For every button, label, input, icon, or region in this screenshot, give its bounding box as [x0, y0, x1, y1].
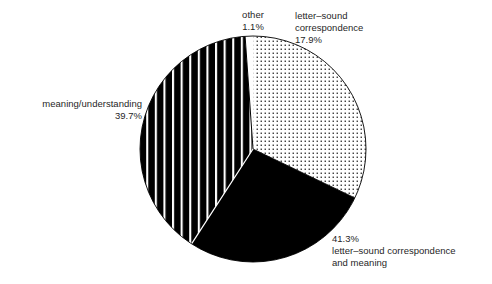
pie-label-combined-name-1: letter–sound correspondence [332, 245, 456, 257]
pie-label-other: other 1.1% [218, 9, 288, 33]
pie-label-letter-sound-value: 17.9% [295, 34, 363, 46]
pie-label-other-value: 1.1% [218, 21, 288, 33]
pie-label-meaning-understanding: meaning/understanding 39.7% [4, 98, 142, 122]
pie-label-combined-value: 41.3% [332, 233, 456, 245]
pie-label-letter-sound-name-1: letter–sound [295, 10, 363, 22]
pie-label-letter-sound-and-meaning: 41.3% letter–sound correspondence and me… [332, 233, 456, 270]
pie-chart-figure: other 1.1% letter–sound correspondence 1… [0, 0, 492, 284]
pie-label-other-name: other [218, 9, 288, 21]
pie-label-meaning-name: meaning/understanding [4, 98, 142, 110]
pie-label-letter-sound-name-2: correspondence [295, 22, 363, 34]
pie-label-combined-name-2: and meaning [332, 257, 456, 269]
pie-label-letter-sound: letter–sound correspondence 17.9% [295, 10, 363, 47]
pie-label-meaning-value: 39.7% [4, 110, 142, 122]
